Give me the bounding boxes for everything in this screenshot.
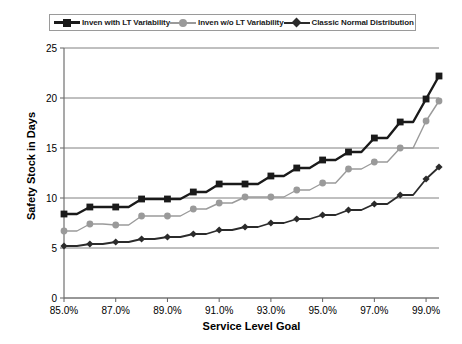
x-tick-label: 97.0% <box>360 305 388 316</box>
data-point-marker <box>61 228 68 235</box>
data-point-marker <box>423 96 430 103</box>
data-point-marker <box>319 157 326 164</box>
data-point-marker <box>138 235 145 242</box>
y-axis-ticks: 2520151050 <box>46 43 64 304</box>
x-tick-label: 85.0% <box>50 305 78 316</box>
data-point-marker <box>216 200 223 207</box>
data-point-marker <box>436 73 443 80</box>
data-point-marker <box>345 149 352 156</box>
data-point-marker <box>267 219 274 226</box>
data-point-marker <box>397 119 404 126</box>
y-tick-label: 25 <box>46 43 58 54</box>
data-point-marker <box>216 226 223 233</box>
data-point-marker <box>267 173 274 180</box>
data-point-marker <box>293 215 300 222</box>
x-tick-label: 91.0% <box>205 305 233 316</box>
data-point-marker <box>112 222 119 229</box>
data-point-marker <box>86 221 93 228</box>
data-point-marker <box>86 240 93 247</box>
x-tick-label: 89.0% <box>153 305 181 316</box>
data-point-marker <box>397 145 404 152</box>
series-circle <box>61 98 443 235</box>
y-axis-title: Safety Stock in Days <box>25 86 37 246</box>
data-point-marker <box>371 135 378 142</box>
data-point-marker <box>190 230 197 237</box>
data-point-marker <box>138 196 145 203</box>
data-point-marker <box>242 181 249 188</box>
x-axis-ticks: 85.0%87.0%89.0%91.0%93.0%95.0%97.0%99.0% <box>50 298 441 316</box>
plot-area: 2520151050 85.0%87.0%89.0%91.0%93.0%95.0… <box>0 0 462 344</box>
data-point-marker <box>60 242 67 249</box>
gridlines <box>64 48 439 298</box>
data-point-marker <box>293 165 300 172</box>
y-tick-label: 0 <box>51 293 57 304</box>
data-point-marker <box>319 180 326 187</box>
x-tick-label: 87.0% <box>102 305 130 316</box>
y-tick-label: 15 <box>46 143 58 154</box>
data-point-marker <box>241 223 248 230</box>
data-series-layer <box>60 73 442 250</box>
data-point-marker <box>164 213 171 220</box>
data-point-marker <box>242 194 249 201</box>
data-point-marker <box>436 98 443 105</box>
series-square <box>61 73 443 218</box>
data-point-marker <box>423 118 430 125</box>
data-point-marker <box>112 238 119 245</box>
data-point-marker <box>371 200 378 207</box>
data-point-marker <box>216 181 223 188</box>
y-tick-label: 20 <box>46 93 58 104</box>
data-point-marker <box>293 187 300 194</box>
data-point-marker <box>319 211 326 218</box>
data-point-marker <box>164 233 171 240</box>
data-point-marker <box>112 204 119 211</box>
x-axis-title: Service Level Goal <box>64 320 439 332</box>
plot-svg: 2520151050 85.0%87.0%89.0%91.0%93.0%95.0… <box>0 0 462 344</box>
data-point-marker <box>371 159 378 166</box>
x-tick-label: 99.0% <box>412 305 440 316</box>
data-point-marker <box>61 211 68 218</box>
data-point-marker <box>190 189 197 196</box>
data-point-marker <box>267 194 274 201</box>
y-tick-label: 10 <box>46 193 58 204</box>
x-tick-label: 95.0% <box>308 305 336 316</box>
data-point-marker <box>345 206 352 213</box>
axis-lines <box>64 48 439 298</box>
y-tick-label: 5 <box>51 243 57 254</box>
data-point-marker <box>190 206 197 213</box>
x-tick-label: 93.0% <box>257 305 285 316</box>
data-point-marker <box>164 196 171 203</box>
data-point-marker <box>138 213 145 220</box>
data-point-marker <box>345 166 352 173</box>
data-point-marker <box>86 204 93 211</box>
safety-stock-chart: Inven with LT Variability Inven w/o LT V… <box>0 0 462 344</box>
